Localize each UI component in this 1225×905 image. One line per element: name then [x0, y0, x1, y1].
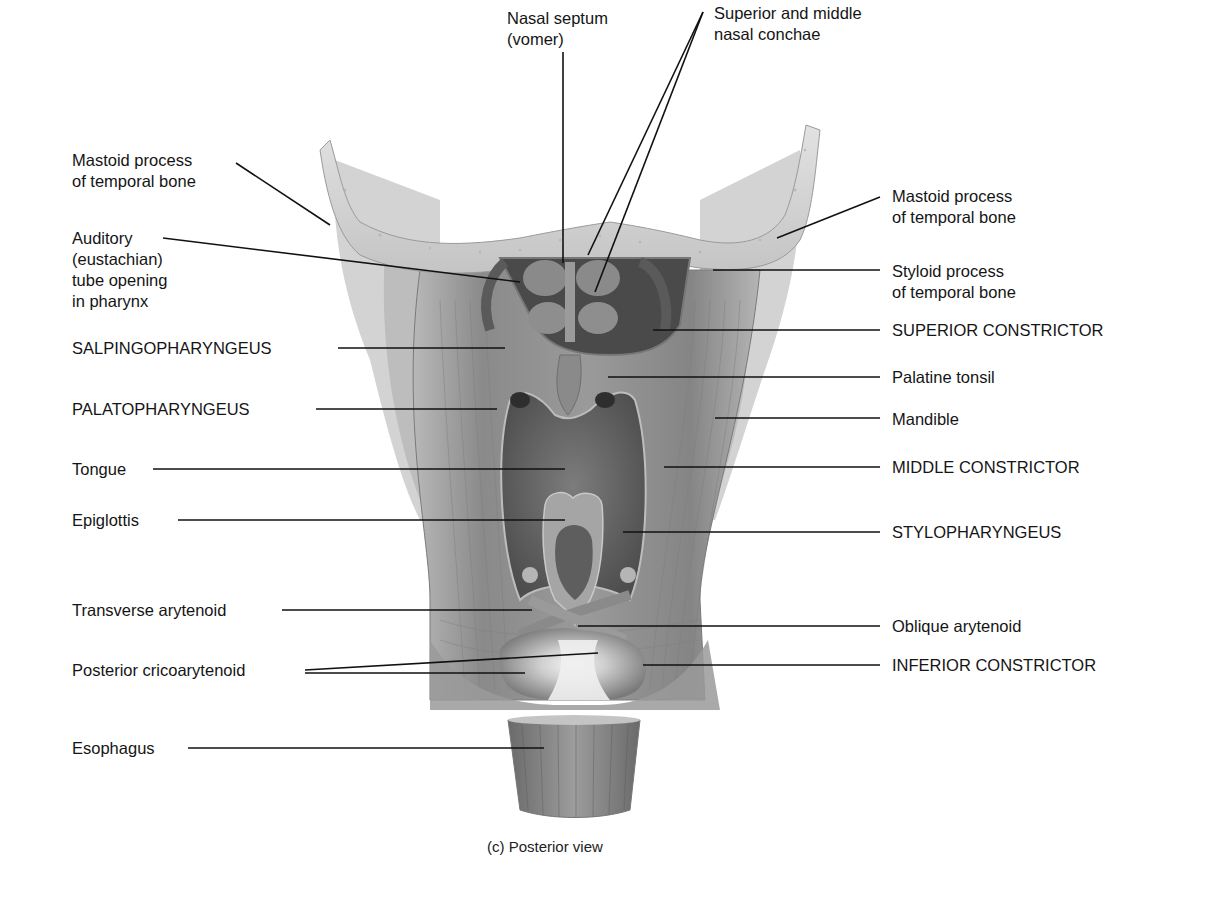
pharynx-illustration [0, 0, 1225, 905]
label-palatopharyngeus: PALATOPHARYNGEUS [72, 399, 250, 420]
label-oblique-arytenoid: Oblique arytenoid [892, 616, 1021, 637]
label-nasal-septum: Nasal septum (vomer) [507, 8, 608, 50]
label-middle-constrictor: MIDDLE CONSTRICTOR [892, 457, 1080, 478]
label-posterior-cricoarytenoid: Posterior cricoarytenoid [72, 660, 245, 681]
label-palatine-tonsil: Palatine tonsil [892, 367, 995, 388]
label-nasal-conchae: Superior and middle nasal conchae [714, 3, 862, 45]
label-styloid-process: Styloid process of temporal bone [892, 261, 1016, 303]
label-epiglottis: Epiglottis [72, 510, 139, 531]
label-mastoid-process-left: Mastoid process of temporal bone [72, 150, 196, 192]
label-tongue: Tongue [72, 459, 126, 480]
label-mastoid-process-right: Mastoid process of temporal bone [892, 186, 1016, 228]
label-salpingopharyngeus: SALPINGOPHARYNGEUS [72, 338, 272, 359]
pharynx-posterior-diagram: Nasal septum (vomer) Superior and middle… [0, 0, 1225, 905]
figure-caption: (c) Posterior view [487, 838, 603, 855]
label-auditory-tube: Auditory (eustachian) tube opening in ph… [72, 228, 167, 312]
label-transverse-arytenoid: Transverse arytenoid [72, 600, 226, 621]
label-superior-constrictor: SUPERIOR CONSTRICTOR [892, 320, 1103, 341]
label-inferior-constrictor: INFERIOR CONSTRICTOR [892, 655, 1096, 676]
label-stylopharyngeus: STYLOPHARYNGEUS [892, 522, 1061, 543]
label-mandible: Mandible [892, 409, 959, 430]
label-esophagus: Esophagus [72, 738, 155, 759]
